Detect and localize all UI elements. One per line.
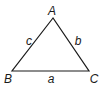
vertex-label-c: C bbox=[90, 73, 99, 85]
vertex-label-b: B bbox=[4, 73, 12, 85]
vertex-label-a: A bbox=[48, 5, 56, 17]
side-label-c: c bbox=[26, 35, 32, 47]
side-label-a: a bbox=[48, 73, 55, 85]
side-label-b: b bbox=[75, 35, 82, 47]
triangle-diagram: A B C a b c bbox=[0, 0, 99, 89]
